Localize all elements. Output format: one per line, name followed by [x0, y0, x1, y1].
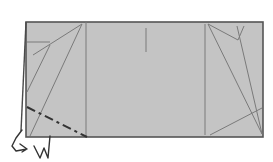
origami-diagram — [0, 0, 273, 162]
paper-sheet — [26, 22, 263, 137]
turn-over-arrow-icon — [34, 136, 50, 158]
fold-behind-arrow-icon — [12, 130, 27, 152]
